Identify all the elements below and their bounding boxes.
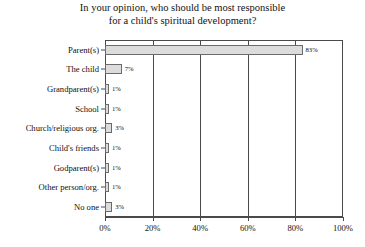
bar-value-label: 3%	[115, 203, 124, 211]
bar-row: Godparent(s)1%	[0, 158, 365, 178]
x-axis-label: 100%	[333, 223, 353, 233]
bar-row: Parent(s)83%	[0, 40, 365, 60]
bar-value-label: 1%	[112, 183, 121, 191]
x-axis-tick	[295, 217, 296, 221]
bar-value-label: 1%	[112, 85, 121, 93]
bar-value-label: 3%	[115, 124, 124, 132]
category-label: Parent(s)	[68, 45, 99, 55]
bar-value-label: 1%	[112, 105, 121, 113]
bar	[105, 104, 109, 114]
chart-title: In your opinion, who should be most resp…	[0, 2, 365, 27]
bar-value-label: 1%	[112, 164, 121, 172]
bar-rows: Parent(s)83%The child7%Grandparent(s)1%S…	[0, 40, 365, 217]
category-label: Child's friends	[49, 143, 99, 153]
bar	[105, 45, 303, 55]
x-axis-label: 20%	[145, 223, 161, 233]
x-axis-tick	[343, 217, 344, 221]
bar-row: No one3%	[0, 197, 365, 217]
category-label: Godparent(s)	[54, 163, 99, 173]
x-axis-line	[105, 217, 343, 218]
x-axis-tick	[105, 217, 106, 221]
bar-row: Other person/org.1%	[0, 178, 365, 198]
bar-value-label: 7%	[125, 65, 134, 73]
x-axis-label: 40%	[192, 223, 208, 233]
x-axis-label: 80%	[288, 223, 304, 233]
x-axis-tick	[200, 217, 201, 221]
x-axis-tick	[248, 217, 249, 221]
category-label: School	[75, 104, 99, 114]
x-axis-label: 0%	[99, 223, 110, 233]
bar	[105, 84, 109, 94]
bar	[105, 123, 112, 133]
bar-row: School1%	[0, 99, 365, 119]
bar-value-label: 83%	[306, 46, 318, 54]
category-label: Other person/org.	[39, 182, 99, 192]
category-label: The child	[66, 64, 99, 74]
bar-row: Child's friends1%	[0, 138, 365, 158]
bar-row: Grandparent(s)1%	[0, 79, 365, 99]
bar-row: The child7%	[0, 60, 365, 80]
chart-title-line-2: for a child's spiritual development?	[0, 15, 365, 28]
bar-value-label: 1%	[112, 144, 121, 152]
bar	[105, 182, 109, 192]
category-label: Grandparent(s)	[47, 84, 99, 94]
x-axis-tick	[153, 217, 154, 221]
x-axis-label: 60%	[240, 223, 256, 233]
bar-row: Church/religious org.3%	[0, 119, 365, 139]
bar	[105, 64, 122, 74]
category-label: No one	[74, 202, 99, 212]
bar	[105, 163, 109, 173]
bar	[105, 143, 109, 153]
chart-title-line-1: In your opinion, who should be most resp…	[0, 2, 365, 15]
category-label: Church/religious org.	[26, 123, 99, 133]
bar	[105, 202, 112, 212]
